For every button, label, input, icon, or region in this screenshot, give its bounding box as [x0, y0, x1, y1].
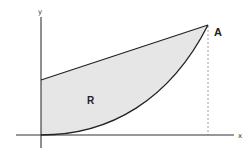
region-r-label: R: [87, 95, 95, 106]
y-axis-label: y: [38, 8, 42, 16]
region-r-fill: [41, 25, 208, 135]
point-a-label: A: [214, 26, 222, 38]
x-axis-label: x: [238, 132, 242, 140]
region-diagram: y x A R: [0, 0, 252, 153]
